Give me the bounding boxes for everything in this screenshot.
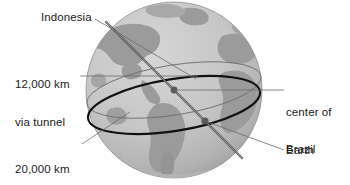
- diagram-canvas: Indonesia 12,000 km via tunnel 20,000 km…: [0, 0, 350, 185]
- label-brazil: Brazil: [286, 143, 315, 156]
- tunnel-distance-line2: via tunnel: [15, 116, 70, 129]
- tunnel-distance-line1: 12,000 km: [15, 78, 70, 91]
- label-center-of-earth: center of Earth: [286, 81, 332, 182]
- label-brazil-text: Brazil: [286, 143, 315, 155]
- circle-distance-line1: 20,000 km: [15, 163, 70, 176]
- label-circle-distance: 20,000 km via circle: [15, 138, 70, 185]
- label-indonesia: Indonesia: [41, 11, 92, 24]
- center-of-earth-line1: center of: [286, 106, 332, 119]
- label-indonesia-text: Indonesia: [41, 11, 92, 23]
